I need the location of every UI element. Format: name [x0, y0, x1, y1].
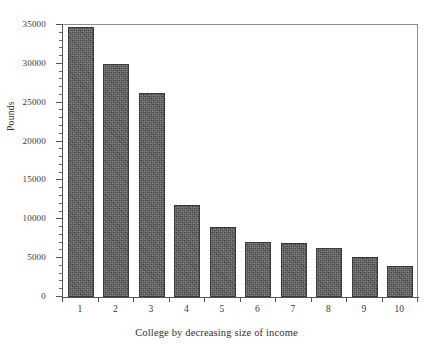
y-axis-tick	[56, 63, 62, 64]
bar	[316, 248, 342, 297]
y-axis-tick-label: 5000	[27, 252, 46, 262]
x-axis-tick	[382, 298, 383, 302]
x-axis-tick-label: 4	[184, 304, 189, 314]
y-axis-minor-tick	[59, 195, 62, 196]
y-axis-minor-tick	[59, 226, 62, 227]
y-axis-minor-tick	[59, 133, 62, 134]
x-axis-tick-labels: 12345678910	[62, 304, 419, 318]
x-axis-tick-label: 2	[113, 304, 118, 314]
y-axis-minor-tick	[59, 78, 62, 79]
y-axis-minor-tick	[59, 117, 62, 118]
y-axis-tick-label: 25000	[23, 97, 47, 107]
y-axis-minor-tick	[59, 280, 62, 281]
y-axis-minor-tick	[59, 187, 62, 188]
y-axis-tick	[56, 179, 62, 180]
bar-chart-figure: 05000100001500020000250003000035000 1234…	[0, 0, 433, 345]
x-axis-ticks	[62, 298, 419, 303]
x-axis-tick-label: 7	[290, 304, 295, 314]
bar	[210, 227, 236, 297]
x-axis-tick	[275, 298, 276, 302]
x-axis-tick-label: 1	[77, 304, 82, 314]
x-axis-tick	[346, 298, 347, 302]
bar	[245, 242, 271, 297]
y-axis-tick	[56, 296, 62, 297]
y-axis-tick-label: 15000	[23, 174, 47, 184]
bar	[281, 243, 307, 297]
y-axis-tick	[56, 218, 62, 219]
y-axis-minor-tick	[59, 109, 62, 110]
x-axis-tick-label: 8	[326, 304, 331, 314]
x-axis-tick	[98, 298, 99, 302]
x-axis-tick-label: 6	[255, 304, 260, 314]
y-axis-minor-tick	[59, 148, 62, 149]
y-axis-minor-tick	[59, 203, 62, 204]
y-axis-minor-tick	[59, 234, 62, 235]
bar	[174, 205, 200, 297]
y-axis-title: Pounds	[6, 117, 16, 131]
x-axis-tick-label: 9	[361, 304, 366, 314]
y-axis-minor-tick	[59, 86, 62, 87]
x-axis-tick	[240, 298, 241, 302]
x-axis-tick	[417, 298, 418, 302]
y-axis-minor-tick	[59, 273, 62, 274]
x-axis-tick	[62, 298, 63, 302]
y-axis-ticks	[56, 24, 62, 298]
y-axis-tick	[56, 257, 62, 258]
x-axis-tick	[133, 298, 134, 302]
y-axis-minor-tick	[59, 249, 62, 250]
y-axis-tick	[56, 141, 62, 142]
y-axis-minor-tick	[59, 211, 62, 212]
y-axis-tick-label: 20000	[23, 136, 47, 146]
y-axis-tick-label: 10000	[23, 213, 47, 223]
bar	[139, 93, 165, 297]
bars-container	[63, 25, 418, 297]
y-axis-minor-tick	[59, 265, 62, 266]
y-axis-minor-tick	[59, 32, 62, 33]
y-axis-minor-tick	[59, 288, 62, 289]
bar	[387, 266, 413, 297]
y-axis-tick-labels: 05000100001500020000250003000035000	[0, 24, 56, 298]
y-axis-minor-tick	[59, 172, 62, 173]
bar	[352, 257, 378, 297]
x-axis-tick	[204, 298, 205, 302]
y-axis-tick	[56, 24, 62, 25]
y-axis-minor-tick	[59, 156, 62, 157]
y-axis-minor-tick	[59, 242, 62, 243]
bar	[68, 27, 94, 297]
x-axis-tick-label: 3	[148, 304, 153, 314]
y-axis-minor-tick	[59, 47, 62, 48]
y-axis-tick-label: 35000	[23, 19, 47, 29]
y-axis-minor-tick	[59, 40, 62, 41]
y-axis-minor-tick	[59, 94, 62, 95]
bar	[103, 64, 129, 297]
y-axis-tick-label: 30000	[23, 58, 47, 68]
y-axis-minor-tick	[59, 125, 62, 126]
x-axis-tick-label: 10	[395, 304, 405, 314]
x-axis-tick-label: 5	[219, 304, 224, 314]
y-axis-tick-label: 0	[41, 291, 46, 301]
y-axis-minor-tick	[59, 164, 62, 165]
y-axis-tick	[56, 102, 62, 103]
x-axis-title: College by decreasing size of income	[0, 327, 433, 338]
y-axis-minor-tick	[59, 55, 62, 56]
x-axis-tick	[169, 298, 170, 302]
y-axis-minor-tick	[59, 71, 62, 72]
x-axis-tick	[311, 298, 312, 302]
clipped-caption-text	[6, 0, 426, 3]
